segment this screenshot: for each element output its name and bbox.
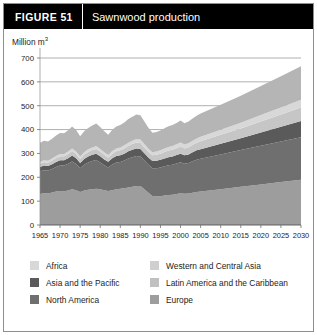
svg-text:2015: 2015 <box>233 231 249 240</box>
legend-swatch-asia-pacific <box>30 278 39 287</box>
svg-text:500: 500 <box>21 102 35 111</box>
legend-swatch-latin-america <box>150 278 159 287</box>
legend-swatch-africa <box>30 261 39 270</box>
svg-text:1995: 1995 <box>152 231 168 240</box>
svg-text:200: 200 <box>21 173 35 182</box>
legend-label-western-central-asia: Western and Central Asia <box>166 261 261 271</box>
legend-swatch-western-central-asia <box>150 261 159 270</box>
figure-number: FIGURE 51 <box>4 11 82 23</box>
legend-item: Asia and the Pacific <box>30 274 120 291</box>
svg-text:2025: 2025 <box>273 231 289 240</box>
svg-text:700: 700 <box>21 54 35 63</box>
svg-text:300: 300 <box>21 149 35 158</box>
legend-swatch-north-america <box>30 295 39 304</box>
legend-item: Western and Central Asia <box>150 257 288 274</box>
legend-label-asia-pacific: Asia and the Pacific <box>46 278 120 288</box>
svg-text:400: 400 <box>21 125 35 134</box>
svg-text:2000: 2000 <box>172 231 188 240</box>
svg-text:2010: 2010 <box>212 231 228 240</box>
svg-text:2030: 2030 <box>293 231 309 240</box>
svg-text:2020: 2020 <box>253 231 269 240</box>
svg-text:1980: 1980 <box>92 231 108 240</box>
svg-text:0: 0 <box>30 221 35 230</box>
stacked-area-chart: 0100200300400500600700196519701975198019… <box>4 30 313 252</box>
legend-label-africa: Africa <box>46 261 67 271</box>
legend-column-1: Africa Asia and the Pacific North Americ… <box>30 257 120 308</box>
legend-swatch-europe <box>150 295 159 304</box>
svg-text:1985: 1985 <box>112 231 128 240</box>
legend-item: Europe <box>150 291 288 308</box>
svg-text:2005: 2005 <box>192 231 208 240</box>
figure-title: Sawnwood production <box>83 11 200 23</box>
legend-item: North America <box>30 291 120 308</box>
svg-text:1975: 1975 <box>72 231 88 240</box>
figure-header: FIGURE 51 Sawnwood production <box>4 4 313 29</box>
svg-text:100: 100 <box>21 197 35 206</box>
legend-column-2: Western and Central Asia Latin America a… <box>150 257 288 308</box>
chart-legend: Africa Asia and the Pacific North Americ… <box>4 255 313 315</box>
legend-item: Latin America and the Caribbean <box>150 274 288 291</box>
svg-text:600: 600 <box>21 78 35 87</box>
svg-text:1990: 1990 <box>132 231 148 240</box>
plot-area: Million m3 01002003004005006007001965197… <box>4 30 313 252</box>
legend-label-latin-america: Latin America and the Caribbean <box>166 278 288 288</box>
legend-item: Africa <box>30 257 120 274</box>
figure-container: FIGURE 51 Sawnwood production Million m3… <box>0 0 317 335</box>
svg-text:1970: 1970 <box>52 231 68 240</box>
legend-label-north-america: North America <box>46 295 99 305</box>
svg-text:1965: 1965 <box>32 231 48 240</box>
legend-label-europe: Europe <box>166 295 193 305</box>
